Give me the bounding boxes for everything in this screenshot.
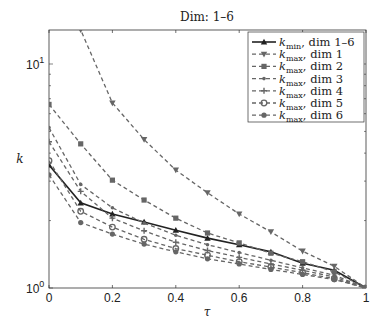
y-tick-labels: 100 101	[26, 55, 44, 296]
y-axis-label: k	[16, 152, 23, 166]
legend: kmin, dim 1–6kmax, dim 1kmax, dim 2kmax,…	[248, 32, 364, 124]
svg-text:0: 0	[46, 291, 53, 305]
svg-text:0.6: 0.6	[231, 291, 248, 305]
line-chart: Dim: 1–6 00.20.40.60.81 100 101 τ k kmin…	[0, 0, 387, 323]
svg-text:1: 1	[363, 291, 370, 305]
svg-text:0.8: 0.8	[294, 291, 311, 305]
svg-text:101: 101	[26, 55, 44, 72]
x-tick-labels: 00.20.40.60.81	[46, 291, 370, 305]
x-axis-label: τ	[204, 305, 211, 319]
chart-title: Dim: 1–6	[180, 10, 234, 24]
svg-text:100: 100	[26, 279, 44, 296]
svg-text:0.4: 0.4	[167, 291, 184, 305]
svg-text:0.2: 0.2	[104, 291, 121, 305]
